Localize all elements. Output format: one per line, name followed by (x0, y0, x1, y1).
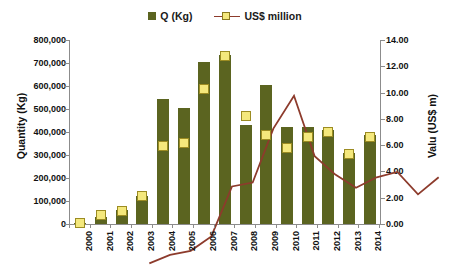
marker-2003 (137, 191, 147, 201)
marker-2010 (282, 143, 292, 153)
chart-container: Q (Kg) US$ million Quantity (Kg) Valu (U… (0, 0, 450, 269)
y-right-tick-label: 12.00 (386, 61, 436, 71)
x-tick-mark (110, 224, 111, 228)
y-right-tick-label: 2.00 (386, 193, 436, 203)
y-right-tick-label: 10.00 (386, 88, 436, 98)
marker-2007 (220, 51, 230, 61)
y-left-tick-label: 800,000 (6, 35, 66, 45)
y-left-tick-label: 700,000 (6, 58, 66, 68)
x-axis-label-2005: 2005 (187, 231, 197, 265)
x-tick-mark (379, 224, 380, 228)
legend-bar-swatch-icon (148, 12, 156, 20)
x-tick-mark (234, 224, 235, 228)
x-tick-mark (317, 224, 318, 228)
x-tick-mark (358, 224, 359, 228)
x-tick-mark (276, 224, 277, 228)
x-tick-mark (193, 224, 194, 228)
marker-2013 (344, 149, 354, 159)
x-axis-label-2008: 2008 (249, 231, 259, 265)
marker-2006 (199, 84, 209, 94)
bar-2004 (157, 99, 169, 224)
y-right-tick-label: 8.00 (386, 114, 436, 124)
y-right-tick-label: 4.00 (386, 166, 436, 176)
x-tick-mark (69, 224, 70, 228)
y-left-tick-label: 500,000 (6, 104, 66, 114)
x-axis-label-2003: 2003 (146, 231, 156, 265)
marker-2000 (75, 218, 85, 228)
x-tick-mark (338, 224, 339, 228)
x-axis-label-2006: 2006 (208, 231, 218, 265)
x-tick-mark (90, 224, 91, 228)
legend-item-quantity: Q (Kg) (148, 10, 192, 22)
x-tick-mark (152, 224, 153, 228)
x-axis-label-2000: 2000 (84, 231, 94, 265)
legend-label-quantity: Q (Kg) (160, 10, 192, 22)
marker-2009 (261, 130, 271, 140)
legend-item-value: US$ million (214, 10, 301, 22)
x-tick-mark (214, 224, 215, 228)
x-axis-label-2004: 2004 (167, 231, 177, 265)
plot-area (69, 40, 381, 225)
legend-label-value: US$ million (244, 10, 301, 22)
bar-2007 (219, 55, 231, 224)
y-right-tick-label: 6.00 (386, 140, 436, 150)
x-tick-mark (172, 224, 173, 228)
y-left-tick-label: 600,000 (6, 81, 66, 91)
marker-2012 (323, 127, 333, 137)
marker-2008 (241, 111, 251, 121)
y-right-tick-label: 0.00 (386, 219, 436, 229)
bar-2008 (240, 125, 252, 224)
x-axis-label-2011: 2011 (311, 231, 321, 265)
marker-2005 (179, 138, 189, 148)
chart-legend: Q (Kg) US$ million (0, 6, 450, 26)
x-axis-label-2007: 2007 (229, 231, 239, 265)
marker-2011 (303, 132, 313, 142)
y-left-tick-label: 0 (6, 219, 66, 229)
bar-2014 (364, 135, 376, 224)
marker-2014 (365, 132, 375, 142)
bar-2009 (260, 85, 272, 224)
x-axis-label-2002: 2002 (125, 231, 135, 265)
marker-2004 (158, 141, 168, 151)
bar-2013 (343, 153, 355, 224)
x-axis-label-2012: 2012 (332, 231, 342, 265)
legend-line-swatch-icon (214, 11, 240, 21)
marker-2001 (96, 210, 106, 220)
x-axis-label-2009: 2009 (270, 231, 280, 265)
x-axis-label-2001: 2001 (105, 231, 115, 265)
x-tick-mark (131, 224, 132, 228)
x-axis-label-2010: 2010 (291, 231, 301, 265)
x-tick-mark (296, 224, 297, 228)
y-left-tick-label: 300,000 (6, 150, 66, 160)
x-axis-label-2014: 2014 (373, 231, 383, 265)
x-tick-mark (255, 224, 256, 228)
marker-2002 (117, 206, 127, 216)
x-axis-label-2013: 2013 (353, 231, 363, 265)
bar-2005 (178, 108, 190, 224)
y-left-tick-label: 400,000 (6, 127, 66, 137)
y-left-tick-label: 200,000 (6, 173, 66, 183)
y-left-tick-label: 100,000 (6, 196, 66, 206)
bar-2012 (322, 130, 334, 224)
y-right-tick-label: 14.00 (386, 35, 436, 45)
